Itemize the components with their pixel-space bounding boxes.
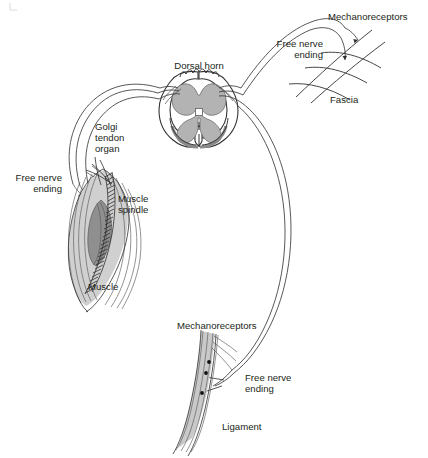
mechanoreceptor-dot	[207, 360, 211, 364]
central-canal	[196, 109, 203, 116]
label-mechanoreceptors-fascia: Mechanoreceptors	[328, 11, 408, 22]
label-free-nerve-ending-ligament-line1: Free nerve	[245, 372, 291, 383]
label-fascia: Fascia	[330, 94, 359, 105]
label-free-nerve-ending-muscle-line2: ending	[33, 183, 62, 194]
label-ligament: Ligament	[222, 421, 262, 432]
spinal-cord-cross-section	[159, 69, 238, 147]
ligament-band	[173, 330, 237, 456]
afferent-fibers-to-ligament	[204, 103, 291, 392]
label-muscle: Muscle	[88, 281, 118, 292]
label-muscle-spindle-line2: spindle	[118, 204, 148, 215]
sensory-innervation-diagram: Dorsal horn Golgi tendon organ Free nerv…	[0, 0, 428, 458]
crop-mark-top-left	[10, 3, 17, 10]
diagram-canvas: Dorsal horn Golgi tendon organ Free nerv…	[0, 0, 428, 458]
label-golgi-tendon-organ-line3: organ	[95, 143, 120, 154]
arrow-head-fascia-free-nerve-ending	[343, 56, 348, 60]
label-muscle-spindle-line1: Muscle	[118, 193, 148, 204]
label-golgi-tendon-organ-line1: Golgi	[95, 121, 117, 132]
mechanoreceptor-dot	[204, 371, 208, 375]
label-free-nerve-ending-muscle-line1: Free nerve	[16, 172, 62, 183]
label-free-nerve-ending-ligament-line2: ending	[245, 383, 274, 394]
label-mechanoreceptors-ligament: Mechanoreceptors	[177, 320, 257, 331]
label-free-nerve-ending-fascia-line2: ending	[294, 49, 323, 60]
label-free-nerve-ending-fascia-line1: Free nerve	[277, 38, 323, 49]
mechanoreceptor-dot	[200, 391, 204, 395]
label-golgi-tendon-organ-line2: tendon	[95, 132, 124, 143]
label-dorsal-horn: Dorsal horn	[174, 60, 224, 71]
